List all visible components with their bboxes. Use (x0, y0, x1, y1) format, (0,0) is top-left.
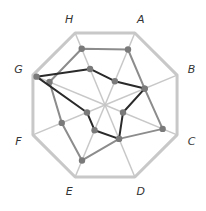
series-2-point-h (87, 66, 93, 72)
series-2-point-g (33, 73, 39, 79)
series-1-point-c (159, 126, 165, 132)
series-2-point-f (84, 109, 90, 115)
series-2-point-d (116, 136, 122, 142)
series-1-point-e (79, 157, 85, 163)
series-2-point-a (112, 78, 118, 84)
series-2-point-b (141, 85, 147, 91)
axis-label-e: E (66, 185, 73, 198)
axis-label-h: H (65, 13, 73, 26)
series-2-point-c (120, 109, 126, 115)
axis-label-g: G (14, 63, 23, 76)
series-2-point-e (91, 127, 97, 133)
axis-label-f: F (15, 135, 22, 148)
radar-series (33, 46, 166, 164)
axis-label-a: A (136, 13, 145, 26)
series-2 (33, 66, 147, 142)
radar-chart: ABCDEFGH (0, 0, 206, 211)
series-1-point-f (59, 120, 65, 126)
axis-label-d: D (137, 185, 145, 198)
series-1-point-h (79, 46, 85, 52)
axis-label-c: C (188, 135, 196, 148)
axis-label-b: B (188, 63, 196, 76)
series-1-point-a (125, 46, 131, 52)
